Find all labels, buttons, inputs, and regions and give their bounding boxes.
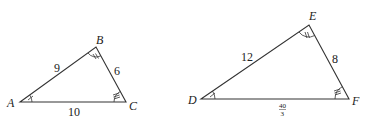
side-ab-label: 9 [54,61,60,75]
angle-c-tick-2 [114,95,120,97]
side-df-numerator: 40 [279,102,287,110]
side-ac-label: 10 [68,105,80,119]
triangle-abc-outline [20,47,126,102]
triangle-abc: A B C 9 6 10 [6,33,138,119]
triangle-def: D E F 12 8 40 3 [187,9,360,118]
vertex-b-label: B [96,33,104,47]
side-ef-label: 8 [332,52,338,66]
similar-triangles-diagram: A B C 9 6 10 D E F 12 8 40 3 [0,0,368,123]
vertex-d-label: D [187,93,197,107]
vertex-e-label: E [308,9,317,23]
vertex-c-label: C [129,99,138,113]
side-bc-label: 6 [114,64,120,78]
vertex-a-label: A [6,96,15,110]
vertex-f-label: F [351,94,360,108]
side-df-denominator: 3 [281,110,285,118]
triangle-def-outline [201,25,349,99]
angle-f-tick-1 [334,89,340,91]
angle-b-tick-2 [96,54,99,59]
side-de-label: 12 [241,50,253,64]
